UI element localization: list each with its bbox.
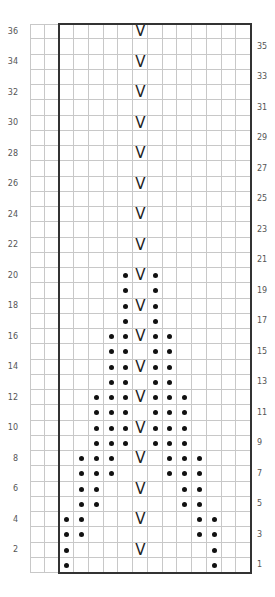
chart-cell: [30, 131, 45, 146]
chart-cell: [30, 161, 45, 176]
chart-cell: [45, 405, 60, 420]
chart-cell: [45, 253, 60, 268]
chart-cell: [30, 268, 45, 283]
chart-cell: [45, 314, 60, 329]
chart-cell: [30, 421, 45, 436]
chart-cell: [45, 482, 60, 497]
row-number-label: 17: [257, 316, 275, 325]
chart-cell: [45, 39, 60, 54]
chart-cell: [30, 390, 45, 405]
knitting-chart-grid: VVVVVVVVVVVVVVVVVV: [30, 24, 251, 573]
chart-cell: [30, 283, 45, 298]
chart-cell: [45, 238, 60, 253]
chart-cell: [30, 253, 45, 268]
row-number-label: 14: [0, 362, 18, 371]
row-number-label: 28: [0, 149, 18, 158]
chart-cell: [30, 314, 45, 329]
chart-cell: [30, 436, 45, 451]
chart-cell: [45, 360, 60, 375]
row-number-label: 35: [257, 42, 275, 51]
row-number-label: 6: [0, 484, 18, 493]
row-number-label: 2: [0, 545, 18, 554]
chart-cell: [45, 283, 60, 298]
row-number-label: 7: [257, 469, 275, 478]
chart-cell: [45, 268, 60, 283]
row-number-label: 11: [257, 408, 275, 417]
chart-cell: [45, 512, 60, 527]
row-number-label: 21: [257, 255, 275, 264]
chart-cell: [45, 527, 60, 542]
chart-cell: [30, 527, 45, 542]
chart-cell: [45, 131, 60, 146]
chart-cell: [30, 85, 45, 100]
chart-cell: [30, 451, 45, 466]
chart-cell: [45, 100, 60, 115]
row-number-label: 15: [257, 347, 275, 356]
chart-cell: [45, 497, 60, 512]
chart-cell: [30, 329, 45, 344]
chart-cell: [45, 55, 60, 70]
row-number-label: 3: [257, 530, 275, 539]
chart-cell: [45, 24, 60, 39]
chart-cell: [45, 390, 60, 405]
chart-cell: [45, 85, 60, 100]
chart-cell: [45, 543, 60, 558]
row-number-label: 31: [257, 103, 275, 112]
row-number-label: 34: [0, 57, 18, 66]
chart-cell: [30, 116, 45, 131]
chart-cell: [45, 451, 60, 466]
chart-cell: [30, 466, 45, 481]
chart-cell: [45, 299, 60, 314]
chart-cell: [30, 192, 45, 207]
chart-cell: [30, 299, 45, 314]
chart-cell: [45, 207, 60, 222]
chart-cell: [45, 344, 60, 359]
chart-cell: [30, 497, 45, 512]
chart-cell: [45, 329, 60, 344]
row-number-label: 1: [257, 560, 275, 569]
chart-cell: [30, 207, 45, 222]
chart-cell: [30, 512, 45, 527]
chart-cell: [45, 466, 60, 481]
chart-cell: [30, 558, 45, 573]
chart-cell: [30, 100, 45, 115]
chart-cell: [45, 161, 60, 176]
row-number-label: 4: [0, 515, 18, 524]
row-number-label: 30: [0, 118, 18, 127]
row-number-label: 12: [0, 393, 18, 402]
chart-cell: [30, 482, 45, 497]
chart-cell: [30, 360, 45, 375]
chart-cell: [45, 421, 60, 436]
chart-cell: [30, 24, 45, 39]
chart-cell: [30, 222, 45, 237]
row-number-label: 27: [257, 164, 275, 173]
chart-cell: [45, 558, 60, 573]
chart-cell: [45, 177, 60, 192]
row-number-label: 23: [257, 225, 275, 234]
chart-cell: [30, 39, 45, 54]
row-number-label: 5: [257, 499, 275, 508]
row-number-label: 16: [0, 332, 18, 341]
row-number-label: 9: [257, 438, 275, 447]
chart-cell: [45, 375, 60, 390]
row-number-label: 29: [257, 133, 275, 142]
chart-cell: [30, 146, 45, 161]
row-number-label: 20: [0, 271, 18, 280]
row-number-label: 36: [0, 27, 18, 36]
row-number-label: 10: [0, 423, 18, 432]
row-number-label: 32: [0, 88, 18, 97]
chart-cell: [45, 70, 60, 85]
row-number-label: 8: [0, 454, 18, 463]
row-number-label: 13: [257, 377, 275, 386]
chart-cell: [30, 405, 45, 420]
chart-cell: [45, 436, 60, 451]
chart-cell: [45, 116, 60, 131]
chart-cell: [30, 177, 45, 192]
chart-cell: [45, 192, 60, 207]
chart-cell: [30, 55, 45, 70]
row-number-label: 22: [0, 240, 18, 249]
row-number-label: 18: [0, 301, 18, 310]
row-number-label: 19: [257, 286, 275, 295]
row-number-label: 26: [0, 179, 18, 188]
row-number-label: 24: [0, 210, 18, 219]
